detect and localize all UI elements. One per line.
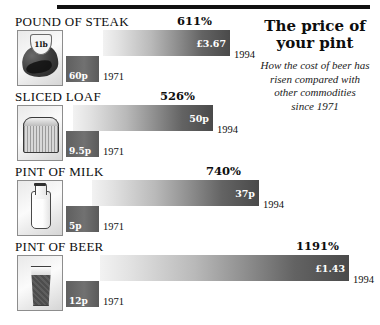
row-label: SLICED LOAF [15,89,101,105]
steak-icon: 1lb [17,30,63,86]
infographic-root: The price of your pint How the cost of b… [0,0,380,325]
percent-increase-label: 740% [206,164,241,178]
row-label: PINT OF MILK [15,164,104,180]
bar-1971-year: 1971 [103,296,124,307]
bar-1994-value: £1.43 [315,263,345,274]
bar-1971-year: 1971 [103,71,124,82]
bar-1994-value: £3.67 [196,38,226,49]
percent-increase-label: 1191% [296,239,339,253]
glass-body-shape [29,266,53,306]
bar-1971: 60p [66,56,99,82]
bar-1994: 50p [73,105,213,131]
bar-1994-value: 50p [189,113,209,124]
bar-1971-value: 9.5p [69,146,91,156]
bar-1994: £3.67 [103,30,230,56]
chart-row-sliced-loaf: SLICED LOAF 526% 50p 1994 9.5p 1971 [0,89,380,164]
bar-1994: 37p [92,180,259,206]
bar-1994-year: 1994 [217,124,238,135]
row-label: PINT OF BEER [15,239,104,255]
bar-1971-year: 1971 [103,221,124,232]
beer-liquid-shape [30,275,52,305]
bottle-cap-shape [34,183,46,186]
bar-1994-year: 1994 [353,274,374,285]
bar-1971: 9.5p [66,131,99,157]
weight-badge-label: 1lb [34,40,47,49]
bar-1994-year: 1994 [234,49,255,60]
percent-increase-label: 526% [160,89,195,103]
row-label: POUND OF STEAK [15,14,129,30]
bar-1994: £1.43 [100,255,349,281]
bar-1994-year: 1994 [263,199,284,210]
beer-glass-icon [17,255,63,311]
bar-1971-value: 12p [69,296,88,306]
chart-row-milk: PINT OF MILK 740% 37p 1994 5p 1971 [0,164,380,239]
bar-1971: 5p [66,206,99,232]
bar-1971-value: 5p [69,221,82,231]
loaf-crust-shape [23,117,59,126]
percent-increase-label: 611% [177,14,212,28]
bar-1971-value: 60p [69,71,88,81]
bar-1971-year: 1971 [103,146,124,157]
beer-foam-shape [30,267,52,275]
bar-1994-value: 37p [235,188,255,199]
bread-loaf-icon [17,105,63,161]
chart-row-steak: POUND OF STEAK 611% 1lb £3.67 1994 60p 1… [0,14,380,89]
top-rule-divider [57,5,370,9]
bar-1971: 12p [66,281,99,307]
chart-row-beer: PINT OF BEER 1191% £1.43 1994 12p 1971 [0,239,380,314]
milk-bottle-icon [17,180,63,236]
